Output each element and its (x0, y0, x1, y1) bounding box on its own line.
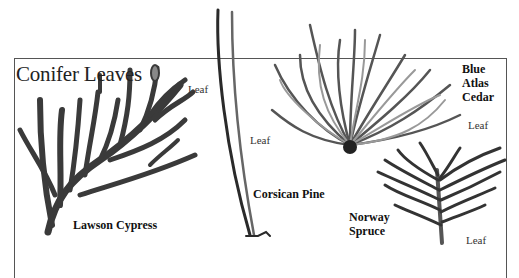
blue-atlas-cedar-name: Blue Atlas Cedar (462, 62, 494, 104)
lawson-cypress-illustration (20, 65, 195, 232)
blue-atlas-cedar-illustration (272, 25, 460, 154)
corsican-pine-name: Corsican Pine (253, 187, 325, 201)
norway-spruce-name: Norway Spruce (349, 210, 390, 238)
diagram-title: Conifer Leaves (16, 62, 142, 87)
lawson-cypress-name: Lawson Cypress (73, 218, 157, 232)
corsican-pine-leaf-label: Leaf (250, 134, 270, 146)
norway-spruce-leaf-label: Leaf (466, 234, 486, 246)
blue-atlas-cedar-leaf-label: Leaf (468, 119, 488, 131)
lawson-cypress-leaf-label: Leaf (188, 83, 208, 95)
corsican-pine-illustration (218, 10, 270, 236)
norway-spruce-illustration (378, 143, 505, 243)
